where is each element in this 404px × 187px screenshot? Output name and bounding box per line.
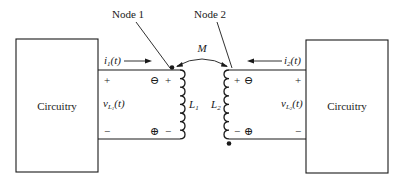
L2-polarity-dot	[227, 141, 232, 146]
left-outer-minus: −	[104, 125, 110, 137]
L2-label: L2	[210, 98, 221, 112]
L2-mutual-bottom: ⊕	[244, 125, 253, 137]
coupled-inductor-diagram: Circuitry Circuitry Node 1 Node 2 M i1(t…	[0, 0, 404, 187]
left-circuitry-label: Circuitry	[37, 100, 77, 112]
node2-label: Node 2	[194, 8, 226, 20]
L2-mutual-top: ⊖	[244, 74, 253, 86]
current-i2: i2(t)	[247, 54, 301, 68]
right-outer-minus: −	[295, 125, 301, 137]
voltage-vL2: vL2(t)	[281, 97, 303, 111]
L2-self-top: +	[234, 74, 240, 86]
left-outer-plus: +	[104, 74, 110, 86]
inductor-L1	[180, 70, 185, 139]
L1-self-top: +	[165, 74, 171, 86]
i2-arg: (t)	[291, 54, 302, 67]
right-outer-plus: +	[295, 74, 301, 86]
svg-text:i1(t): i1(t)	[104, 54, 121, 68]
current-i1: i1(t)	[104, 54, 152, 68]
L1-self-bottom: −	[165, 125, 171, 137]
left-circuitry-block: Circuitry	[16, 39, 98, 172]
node2-leader	[217, 22, 232, 68]
svg-text:i2(t): i2(t)	[284, 54, 301, 68]
mutual-inductance-symbol: M	[196, 42, 207, 54]
L1-mutual-top: ⊖	[150, 74, 159, 86]
mutual-coupling-arrow	[176, 59, 228, 67]
i1-arg: (t)	[111, 54, 122, 67]
L1-label: L1	[188, 98, 199, 112]
right-circuitry-label: Circuitry	[327, 100, 367, 112]
L2-self-bottom: −	[234, 125, 240, 137]
inductor-L2	[224, 70, 229, 139]
right-circuitry-block: Circuitry	[306, 40, 388, 173]
L1-polarity-dot	[170, 65, 175, 70]
node1-label: Node 1	[112, 8, 144, 20]
voltage-vL1: vL1(t)	[103, 97, 125, 111]
polarity-signs: + − ⊖ + ⊕ − + ⊖ − ⊕ + −	[104, 74, 301, 137]
L1-mutual-bottom: ⊕	[150, 125, 159, 137]
